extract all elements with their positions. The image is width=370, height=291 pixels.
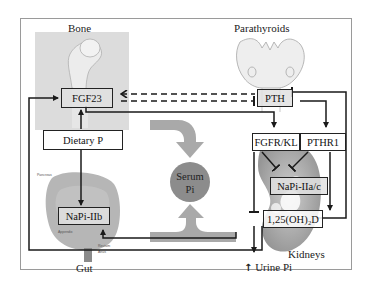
serum-pi-label: Serum Pi — [172, 170, 208, 196]
napi-iiac-node: NaPi-IIa/c — [270, 177, 328, 195]
vitamin-d-node: 1,25(OH)₂D — [263, 210, 323, 228]
serum-pi-line2: Pi — [172, 183, 208, 196]
parathyroids-label: Parathyroids — [234, 22, 290, 34]
fgfr-kl-node: FGFR/KL — [252, 133, 300, 151]
up-arrow-icon: ↑ — [244, 262, 252, 273]
urine-pi-output: ↑ Urine Pi — [244, 261, 292, 273]
pth-fgf23-dashed-links — [121, 94, 255, 101]
svg-text:Pancreas: Pancreas — [37, 173, 52, 177]
svg-text:Appendix: Appendix — [58, 230, 73, 234]
bone-illustration — [35, 32, 129, 130]
dietary-p-node: Dietary P — [43, 130, 123, 150]
fgf23-node: FGF23 — [61, 88, 113, 108]
urine-pi-label: Urine Pi — [255, 261, 292, 273]
pthr1-node: PTHR1 — [300, 133, 346, 151]
pth-node: PTH — [257, 89, 293, 107]
kidneys-label: Kidneys — [288, 248, 325, 260]
bone-label: Bone — [68, 22, 91, 34]
gut-label: Gut — [76, 262, 93, 274]
serum-pi-line1: Serum — [172, 170, 208, 183]
svg-text:Rectum: Rectum — [98, 244, 110, 248]
napi-iib-node: NaPi-IIb — [58, 207, 110, 225]
